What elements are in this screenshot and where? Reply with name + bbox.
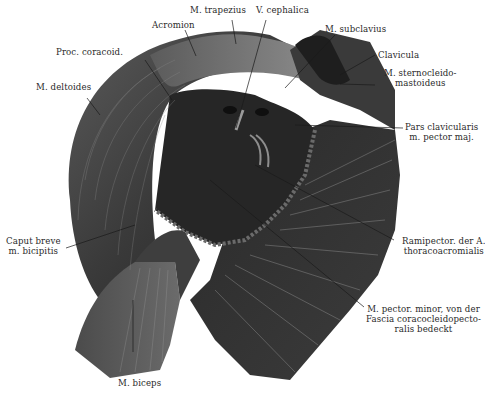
label-acromion: Acromion [152,20,195,30]
label-text: M. pector. minor, von der [366,304,481,314]
anatomical-figure: M. trapezius V. cephalica Acromion M. su… [0,0,485,398]
label-text: Proc. coracoid. [56,47,123,57]
label-m-deltoides: M. deltoides [36,82,91,92]
label-text: M. sternocleido- [384,68,457,78]
label-text: Clavicula [378,50,419,60]
label-v-cephalica: V. cephalica [256,5,309,15]
label-m-sternocleidomastoideus: M. sternocleido- mastoideus [384,68,457,88]
label-caput-breve: Caput breve m. bicipitis [6,236,61,256]
label-text: M. biceps [118,378,161,388]
label-pars-clavicularis: Pars clavicularis m. pector maj. [405,122,478,142]
label-clavicula: Clavicula [378,50,419,60]
label-text: m. pector maj. [405,132,478,142]
label-text: Acromion [152,20,195,30]
label-m-subclavius: M. subclavius [325,24,386,34]
label-text: V. cephalica [256,5,309,15]
label-rami-pector: Ramipector. der A. thoracoacromialis [402,236,485,256]
label-text: Fascia coracocleidopecto- [366,314,481,324]
label-text: M. trapezius [190,5,246,15]
label-text: Pars clavicularis [405,122,478,132]
label-m-biceps: M. biceps [118,378,161,388]
label-text: M. subclavius [325,24,386,34]
label-m-pector-minor: M. pector. minor, von der Fascia coracoc… [366,304,481,334]
label-text: Ramipector. der A. [402,236,485,246]
label-text: M. deltoides [36,82,91,92]
vessel-opening [223,106,237,114]
label-proc-coracoid: Proc. coracoid. [56,47,123,57]
label-text: ralis bedeckt [366,324,481,334]
label-m-trapezius: M. trapezius [190,5,246,15]
label-text: mastoideus [384,78,457,88]
label-text: thoracoacromialis [402,246,485,256]
vessel-opening [255,108,269,116]
label-text: Caput breve [6,236,61,246]
label-text: m. bicipitis [6,246,61,256]
